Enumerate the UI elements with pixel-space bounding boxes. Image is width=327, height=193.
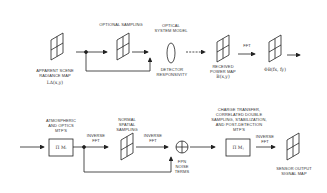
optional-sampling-grid-icon xyxy=(117,33,129,60)
scene-radiance-label: APPARENT SCENE RADIANCE MAP xyxy=(30,68,80,78)
received-power-symbol: B(x,y) xyxy=(210,74,236,79)
inverse-fft-label-1: INVERSE FFT xyxy=(86,133,106,143)
scene-radiance-grid-icon xyxy=(51,33,63,60)
detector-responsivity-label: DETECTOR RESPONSIVITY xyxy=(150,67,194,77)
sensor-output-label: SENSOR OUTPUT SIGNAL MAP xyxy=(272,166,316,176)
spatial-sampling-grid-icon xyxy=(121,133,133,160)
optical-system-lens-icon xyxy=(167,43,175,63)
optional-sampling-label: OPTIONAL SAMPLING xyxy=(96,22,146,27)
inverse-fft-label-2: INVERSE FFT xyxy=(142,133,164,143)
atmos-mtf-box-symbol: Π Mᵢ xyxy=(49,145,73,150)
post-detection-box-symbol: Π Mⱼ xyxy=(226,145,250,150)
scene-radiance-symbol: LΔ(x,y) xyxy=(35,80,75,85)
spectrum-symbol: ΦB(fx, fy) xyxy=(258,67,292,72)
fft-label: FFT xyxy=(240,43,254,48)
spectrum-grid-icon xyxy=(269,35,281,62)
received-power-label: RECEIVED POWER MAP xyxy=(206,64,240,74)
post-detection-mtf-label: CHARGE TRANSFER, CORRELATED DOUBLE SAMPL… xyxy=(208,107,270,132)
optical-system-model-label: OPTICAL SYSTEM MODEL xyxy=(148,23,194,33)
fpn-noise-label: FPN NOISE TERMS xyxy=(172,159,192,174)
inverse-fft-label-3: INVERSE FFT xyxy=(254,134,276,144)
atmos-mtf-label: ATMOSPHERIC AND OPTICS MTF'S xyxy=(38,118,84,133)
sensor-output-grid-icon xyxy=(287,133,299,160)
spatial-sampling-label: NORMAL SPATIAL SAMPLING xyxy=(112,117,142,132)
summing-junction-icon xyxy=(176,141,188,153)
received-power-grid-icon xyxy=(217,35,229,62)
